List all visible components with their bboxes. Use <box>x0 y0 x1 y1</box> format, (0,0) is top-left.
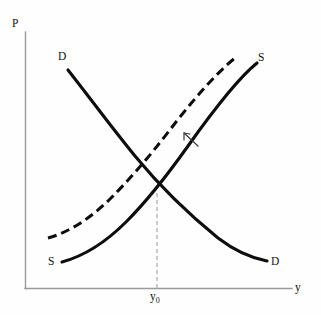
equilibrium-quantity-label: y0 <box>150 291 160 305</box>
supply-curve <box>62 63 257 262</box>
supply-curve-label-bottom: S <box>48 256 54 268</box>
shifted-supply-curve <box>48 58 235 238</box>
supply-demand-figure: P y y0 D S S D <box>0 0 321 315</box>
x-axis-label: y <box>295 282 301 294</box>
demand-curve-label-top: D <box>58 51 66 63</box>
figure-canvas <box>0 0 321 315</box>
supply-curve-label-top: S <box>258 52 264 64</box>
y-axis-label: P <box>12 18 18 30</box>
axes-group <box>25 32 292 289</box>
demand-curve <box>68 70 267 261</box>
demand-curve-label-bottom: D <box>271 256 279 268</box>
equilibrium-quantity-subscript: 0 <box>156 296 160 305</box>
